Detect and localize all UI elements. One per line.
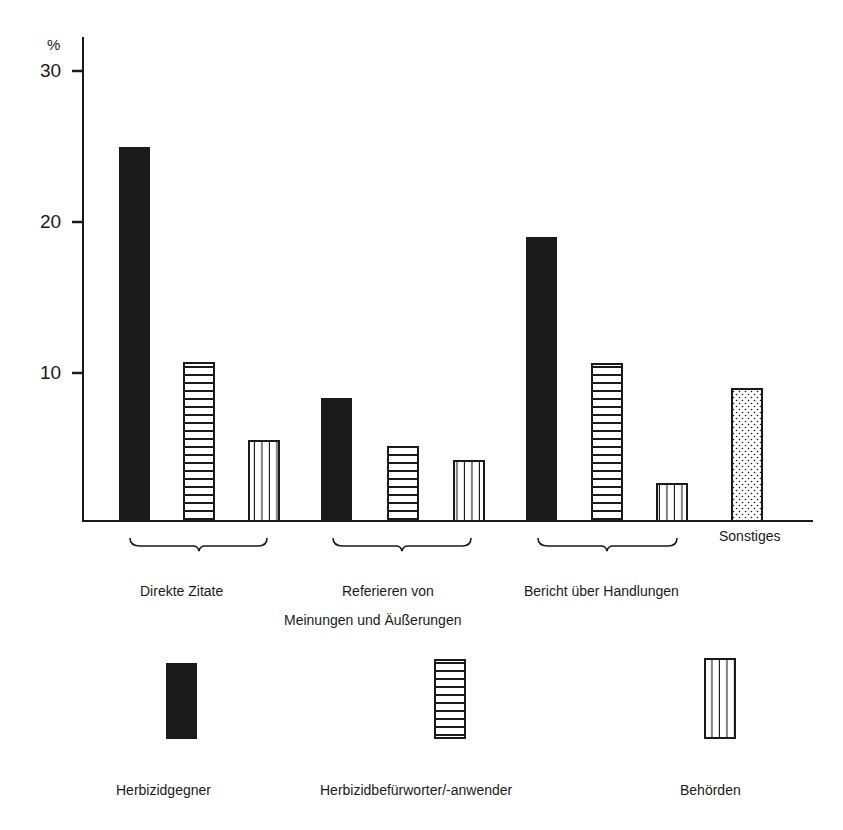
- bar-herbizidbefuerworter: [184, 363, 214, 521]
- y-tick-label-20: 20: [40, 211, 61, 233]
- legend-swatch-herbizidbefuerworter: [435, 660, 465, 738]
- legend-label-herbizidbefuerworter: Herbizidbefürworter/-anwender: [320, 782, 512, 798]
- bar-group-referieren: [321, 398, 484, 521]
- group-label-bericht: Bericht über Handlungen: [524, 583, 679, 599]
- bar-sonstiges: [732, 389, 762, 521]
- y-tick-label-10: 10: [40, 362, 61, 384]
- y-axis-unit-label: %: [47, 36, 60, 53]
- bar-chart: [0, 0, 843, 830]
- category-label-sonstiges: Sonstiges: [719, 528, 780, 544]
- bar-behoerden: [249, 441, 279, 521]
- group-label-referieren-line1: Referieren von: [342, 583, 434, 599]
- legend-label-herbizidgegner: Herbizidgegner: [116, 782, 211, 798]
- y-axis: [72, 37, 83, 522]
- y-tick-label-30: 30: [40, 60, 61, 82]
- group-label-direkte-zitate: Direkte Zitate: [140, 583, 223, 599]
- brace-bericht: [538, 538, 677, 551]
- bar-herbizidgegner: [526, 237, 557, 521]
- brace-direkte-zitate: [130, 538, 267, 551]
- brace-referieren: [333, 538, 471, 551]
- bar-herbizidbefuerworter: [388, 447, 418, 521]
- group-label-referieren-line2: Meinungen und Äußerungen: [284, 612, 461, 628]
- bar-behoerden: [657, 484, 687, 521]
- bar-herbizidbefuerworter: [592, 364, 622, 521]
- bar-group-bericht: [526, 237, 687, 521]
- bar-herbizidgegner: [321, 398, 352, 521]
- bar-group-direkte-zitate: [119, 147, 279, 521]
- bar-herbizidgegner: [119, 147, 150, 521]
- legend-label-behoerden: Behörden: [680, 782, 741, 798]
- legend-swatch-behoerden: [705, 659, 735, 738]
- bar-behoerden: [454, 461, 484, 521]
- legend-swatch-herbizidgegner: [166, 663, 197, 739]
